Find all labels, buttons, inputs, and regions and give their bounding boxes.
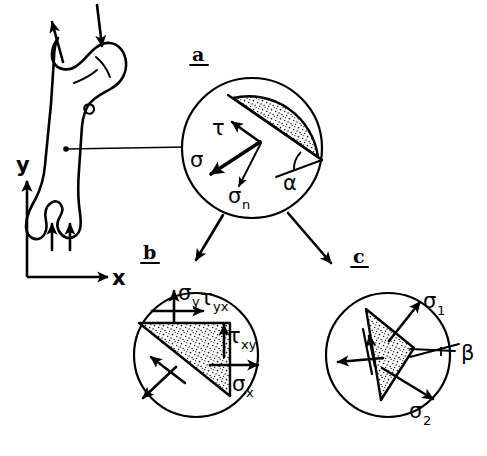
figure-root: y x a τ σ σ n α: [0, 0, 487, 456]
panel-a-sigma-n-subscript: n: [242, 197, 250, 212]
panel-b-letter: b: [143, 241, 156, 263]
panel-b-tau-yx-label-group: τ yx: [200, 286, 229, 314]
panel-b-sigma-y-subscript: y: [192, 294, 200, 309]
panel-c-sigma-2-subscript: 2: [423, 413, 431, 428]
hip-load-arrow: [97, 5, 102, 46]
panel-b-tau-yx-label: τ: [200, 286, 213, 310]
stress-analysis-diagram: y x a τ σ σ n α: [0, 0, 487, 456]
panel-c-sigma-1-label: σ: [423, 289, 436, 313]
panel-a-sigma-label: σ: [190, 148, 203, 172]
panel-b-tau-xy-label: τ: [228, 324, 241, 348]
panel-b-sigma-x-label: σ: [232, 372, 245, 396]
panel-c-group: c σ 1 β σ 2: [326, 245, 474, 428]
panel-a-tau-label: τ: [212, 116, 225, 140]
panel-a-group: a τ σ σ n α: [182, 43, 322, 218]
leader-line: [66, 147, 186, 149]
branch-arrows: [196, 213, 331, 263]
femur-bone-group: [26, 38, 126, 239]
y-axis-label: y: [16, 153, 30, 177]
panel-a-sigma-n-label: σ: [228, 184, 241, 208]
femur-outline: [26, 38, 126, 239]
panel-b-sigma-y-label-group: σ y: [178, 281, 200, 309]
branch-arrow-to-c: [288, 213, 331, 263]
x-axis-label: x: [112, 266, 126, 290]
panel-b-sigma-x-subscript: x: [246, 385, 254, 400]
panel-c-letter: c: [353, 245, 365, 267]
panel-b-tau-xy-subscript: xy: [241, 337, 257, 352]
panel-b-tau-yx-subscript: yx: [213, 299, 229, 314]
panel-b-sigma-y-label: σ: [178, 281, 191, 305]
panel-c-beta-label: β: [461, 341, 474, 365]
panel-a-letter: a: [192, 43, 204, 65]
panel-b-group: b σ y τ yx τ xy σ x: [134, 241, 258, 417]
branch-arrow-to-b: [196, 215, 223, 260]
panel-c-sigma-2-label: σ: [409, 399, 422, 423]
panel-a-alpha-label: α: [283, 171, 297, 195]
panel-c-sigma-1-subscript: 1: [437, 303, 445, 318]
